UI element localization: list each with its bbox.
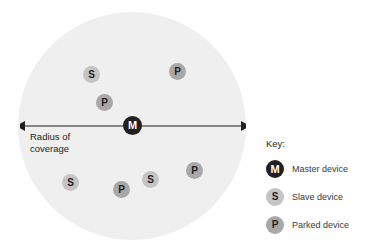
- key-item-parked-label: Parked device: [292, 220, 349, 230]
- key-item-slave: S Slave device: [266, 188, 366, 206]
- master-device-icon: M: [266, 160, 284, 178]
- node-label: S: [67, 178, 74, 188]
- node-label: S: [88, 70, 95, 80]
- node-master: M: [123, 116, 142, 135]
- node-slave-1: S: [83, 66, 100, 83]
- node-label: M: [128, 120, 137, 131]
- node-label: S: [147, 175, 154, 185]
- radius-label-line-1: Radius of: [30, 131, 116, 143]
- node-parked-2: P: [96, 94, 113, 111]
- key-item-slave-label: Slave device: [292, 192, 343, 202]
- node-parked-4: P: [186, 162, 203, 179]
- node-label: P: [118, 185, 125, 195]
- key-swatch-letter: M: [270, 164, 279, 175]
- key-swatch-letter: P: [272, 220, 279, 230]
- node-parked-3: P: [113, 181, 130, 198]
- node-label: P: [101, 98, 108, 108]
- node-slave-3: S: [142, 171, 159, 188]
- radius-of-coverage-label: Radius of coverage: [30, 131, 116, 155]
- key-legend: Key: M Master device S Slave device P Pa…: [266, 138, 366, 244]
- key-item-master-label: Master device: [292, 164, 348, 174]
- key-title: Key:: [266, 138, 366, 149]
- key-swatch-letter: S: [272, 192, 279, 202]
- node-label: P: [174, 67, 181, 77]
- node-slave-2: S: [62, 174, 79, 191]
- key-item-master: M Master device: [266, 160, 366, 178]
- diagram-canvas: S P P M S P S P Radius of coverage Key: …: [0, 0, 367, 248]
- radius-label-line-2: coverage: [30, 143, 116, 155]
- parked-device-icon: P: [266, 216, 284, 234]
- node-label: P: [191, 166, 198, 176]
- slave-device-icon: S: [266, 188, 284, 206]
- key-item-parked: P Parked device: [266, 216, 366, 234]
- node-parked-1: P: [169, 63, 186, 80]
